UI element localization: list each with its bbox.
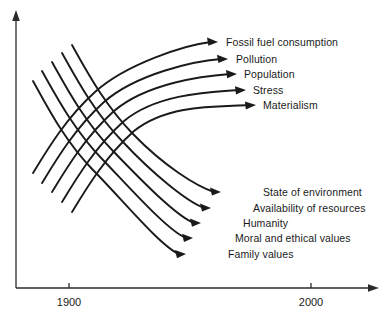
arrowhead-availability-of-resources	[200, 203, 211, 211]
curve-family-values	[33, 81, 179, 254]
arrowhead-family-values	[175, 250, 186, 258]
trends-chart: Fossil fuel consumption Pollution Popula…	[0, 0, 390, 318]
series-label-fossil-fuel-consumption: Fossil fuel consumption	[226, 37, 338, 48]
arrowhead-state-of-environment	[210, 187, 221, 195]
series-label-materialism: Materialism	[263, 100, 318, 111]
series-label-population: Population	[244, 69, 295, 80]
arrowhead-pollution	[217, 55, 228, 63]
series-label-stress: Stress	[253, 85, 283, 96]
series-label-state-of-environment: State of environment	[263, 187, 362, 198]
series-label-pollution: Pollution	[236, 54, 277, 65]
series-label-moral-and-ethical-values: Moral and ethical values	[235, 233, 351, 244]
arrowhead-humanity	[190, 219, 201, 227]
curve-moral-and-ethical-values	[42, 71, 186, 238]
x-tick-label-1900: 1900	[57, 297, 81, 308]
series-label-family-values: Family values	[228, 249, 293, 260]
x-axis-arrow-icon	[368, 284, 379, 292]
arrowhead-population	[226, 70, 237, 78]
arrowhead-fossil-fuel-consumption	[207, 38, 218, 46]
arrowhead-materialism	[245, 101, 256, 109]
curve-availability-of-resources	[62, 53, 204, 208]
axes-group	[12, 10, 379, 292]
y-axis-arrow-icon	[12, 10, 20, 21]
series-label-availability-of-resources: Availability of resources	[253, 203, 366, 214]
rising-curves-group	[33, 38, 256, 212]
arrowhead-moral-and-ethical-values	[182, 234, 193, 242]
series-label-humanity: Humanity	[243, 218, 288, 229]
x-tick-label-2000: 2000	[299, 297, 323, 308]
arrowhead-stress	[235, 86, 246, 94]
